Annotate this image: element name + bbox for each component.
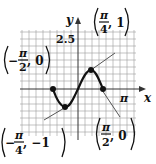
svg-text:−: − <box>5 136 15 150</box>
y-axis-label: y <box>65 13 74 27</box>
label-right-zero: π 2 , 0 <box>97 118 135 150</box>
tangent-lines <box>44 53 120 120</box>
point-min <box>62 104 68 110</box>
x-tick-pi: π <box>119 92 129 105</box>
svg-text:−: − <box>8 54 18 68</box>
point-left-zero <box>50 86 56 92</box>
svg-text:, 0: , 0 <box>27 54 44 68</box>
svg-text:2: 2 <box>19 61 27 74</box>
sine-graph: y x 2.5 π π 4 , 1 − π 2 , 0 − π 4 , −1 π… <box>0 0 156 164</box>
svg-text:4: 4 <box>100 23 108 36</box>
x-axis-label: x <box>143 91 152 105</box>
point-right-zero <box>100 86 106 92</box>
svg-text:, 1: , 1 <box>108 16 125 30</box>
svg-text:, −1: , −1 <box>23 136 50 150</box>
svg-text:4: 4 <box>15 144 23 157</box>
point-max <box>88 67 94 73</box>
svg-text:, 0: , 0 <box>110 129 127 143</box>
y-tick-label: 2.5 <box>56 33 75 46</box>
svg-text:2: 2 <box>102 136 110 149</box>
y-axis-arrow-icon <box>75 17 81 24</box>
label-min-point: − π 4 , −1 <box>2 128 65 157</box>
